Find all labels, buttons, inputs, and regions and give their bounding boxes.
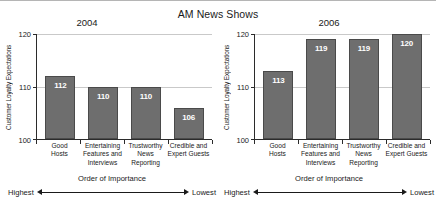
bar-slot: 120 xyxy=(392,34,422,139)
order-highest-label: Highest xyxy=(224,188,250,197)
category-label-line: Expert Guests xyxy=(386,150,428,158)
x-category-labels-right: Good Hosts Entertaining Features and Int… xyxy=(254,142,430,167)
bar-slot: 110 xyxy=(88,34,118,139)
category-label-line: Entertaining xyxy=(82,142,124,150)
category-label-line: Good xyxy=(257,142,299,150)
bar[interactable]: 110 xyxy=(131,87,161,140)
bar-slot: 110 xyxy=(131,34,161,139)
x-category-labels-left: Good Hosts Entertaining Features and Int… xyxy=(36,142,212,167)
category-label-line: Good xyxy=(39,142,81,150)
category-label: Good Hosts xyxy=(257,142,299,167)
y-axis-title-right: Customer Loyalty Expectations xyxy=(220,34,232,140)
plot-wrap-left: 112 110 110 10 xyxy=(36,34,212,140)
order-of-importance-right: Order of Importance Highest Lowest xyxy=(224,174,434,200)
bar[interactable]: 112 xyxy=(45,76,75,139)
category-label-line: News Reporting xyxy=(125,150,167,167)
category-label-line: Interviews xyxy=(300,159,342,167)
category-label: Trustworthy News Reporting xyxy=(343,142,385,167)
bar[interactable]: 106 xyxy=(174,108,204,140)
y-tick-label: 110 xyxy=(19,83,31,92)
order-lowest-label: Lowest xyxy=(192,188,216,197)
bar-value-label: 110 xyxy=(89,92,117,101)
category-label-line: Hosts xyxy=(39,150,81,158)
category-label: Entertaining Features and Interviews xyxy=(300,142,342,167)
bar[interactable]: 113 xyxy=(263,71,293,139)
order-highest-label: Highest xyxy=(8,188,34,197)
category-label-line: Credible and xyxy=(168,142,210,150)
double-arrow-icon xyxy=(253,189,407,196)
bar[interactable]: 120 xyxy=(392,34,422,139)
category-label-line: Expert Guests xyxy=(168,150,210,158)
y-tick-label: 120 xyxy=(236,30,249,39)
x-tick xyxy=(212,140,213,144)
arrow-left-icon xyxy=(37,189,42,195)
y-tick-label: 100 xyxy=(236,136,249,145)
bar-value-label: 113 xyxy=(264,76,292,85)
bar-group-2004: 112 110 110 10 xyxy=(37,34,212,139)
category-label-line: News Reporting xyxy=(343,150,385,167)
x-axis-title-right: Order of Importance xyxy=(224,174,434,183)
y-axis-title-left: Customer Loyalty Expectations xyxy=(2,34,14,140)
order-arrow-row: Highest Lowest xyxy=(8,186,216,198)
category-label: Entertaining Features and Interviews xyxy=(82,142,124,167)
bar-slot: 119 xyxy=(349,34,379,139)
category-label-line: Entertaining xyxy=(300,142,342,150)
bar-slot: 113 xyxy=(263,34,293,139)
plot-area-left: 112 110 110 10 xyxy=(36,34,212,140)
category-label: Good Hosts xyxy=(39,142,81,167)
y-axis-ticks-left: 120 110 100 xyxy=(14,34,34,140)
bar-slot: 112 xyxy=(45,34,75,139)
category-label: Credible and Expert Guests xyxy=(168,142,210,167)
order-arrow-row: Highest Lowest xyxy=(224,186,434,198)
category-label-line: Hosts xyxy=(257,150,299,158)
bar-value-label: 119 xyxy=(350,44,378,53)
category-label-line: Trustworthy xyxy=(125,142,167,150)
x-axis-title-left: Order of Importance xyxy=(8,174,216,183)
bar-value-label: 110 xyxy=(132,92,160,101)
order-lowest-label: Lowest xyxy=(410,188,434,197)
bar[interactable]: 119 xyxy=(349,39,379,139)
order-of-importance-left: Order of Importance Highest Lowest xyxy=(8,174,216,200)
chart-panel-2006: 2006 Customer Loyalty Expectations 120 1… xyxy=(218,6,436,202)
arrow-left-icon xyxy=(253,189,258,195)
category-label-line: Features and xyxy=(82,150,124,158)
panel-title-2006: 2006 xyxy=(220,17,436,28)
plot-area-right: 113 119 119 12 xyxy=(254,34,430,140)
category-label-line: Interviews xyxy=(82,159,124,167)
x-tick xyxy=(430,140,431,144)
double-arrow-icon xyxy=(37,189,189,196)
bar[interactable]: 110 xyxy=(88,87,118,140)
bar-value-label: 120 xyxy=(393,39,421,48)
category-label: Trustworthy News Reporting xyxy=(125,142,167,167)
bar-group-2006: 113 119 119 12 xyxy=(255,34,430,139)
category-label-line: Trustworthy xyxy=(343,142,385,150)
bar-slot: 106 xyxy=(174,34,204,139)
bar[interactable]: 119 xyxy=(306,39,336,139)
bar-value-label: 119 xyxy=(307,44,335,53)
figure: AM News Shows 2004 Customer Loyalty Expe… xyxy=(0,6,436,202)
category-label-line: Credible and xyxy=(386,142,428,150)
panel-title-2004: 2004 xyxy=(0,17,196,28)
y-tick-label: 100 xyxy=(18,136,31,145)
plot-wrap-right: 113 119 119 12 xyxy=(254,34,430,140)
y-axis-ticks-right: 120 110 100 xyxy=(232,34,252,140)
chart-panel-2004: 2004 Customer Loyalty Expectations 120 1… xyxy=(0,6,218,202)
y-tick-label: 110 xyxy=(237,83,249,92)
category-label-line: Features and xyxy=(300,150,342,158)
bar-value-label: 112 xyxy=(46,81,74,90)
arrow-right-icon xyxy=(402,189,407,195)
y-tick-label: 120 xyxy=(18,30,31,39)
arrow-right-icon xyxy=(184,189,189,195)
header-divider xyxy=(0,0,436,1)
category-label: Credible and Expert Guests xyxy=(386,142,428,167)
bar-value-label: 106 xyxy=(175,113,203,122)
bar-slot: 119 xyxy=(306,34,336,139)
